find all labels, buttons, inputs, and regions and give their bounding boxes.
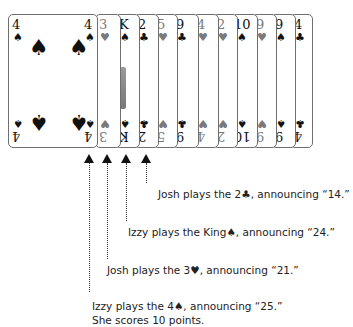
dotted-leader-line [89, 163, 90, 292]
arrow-up-icon [102, 154, 112, 163]
suit-icon: ♣ [177, 32, 187, 43]
card-rank: 4 [12, 18, 20, 32]
suit-icon: ♠ [120, 118, 130, 129]
play-note: Izzy plays the 4♠, announcing “25.” [92, 300, 282, 313]
play-note: Josh plays the 2♣, announcing “14.” [158, 188, 350, 201]
suit-icon: ♠ [13, 118, 23, 129]
score-note: She scores 10 points. [92, 314, 204, 327]
suit-icon: ♥ [158, 32, 168, 43]
suit-icon: ♣ [295, 118, 305, 129]
suit-icon: ♠ [120, 32, 130, 43]
play-note: Josh plays the 3♥, announcing “21.” [107, 264, 299, 277]
suit-icon: ♥ [257, 118, 267, 129]
suit-icon: ♥ [158, 118, 168, 129]
arrow-up-icon [121, 154, 131, 163]
suit-icon: ♥ [198, 32, 208, 43]
arrow-up-icon [141, 154, 151, 163]
card-rank: 4 [12, 129, 20, 143]
suit-icon: ♥ [218, 32, 228, 43]
dotted-leader-line [126, 163, 127, 221]
suit-icon: ♠ [276, 32, 286, 43]
spade-pip-icon: ♠ [29, 111, 49, 133]
suit-icon: ♥ [100, 32, 110, 43]
suit-icon: ♠ [237, 32, 247, 43]
suit-icon: ♣ [295, 32, 305, 43]
dotted-leader-line [107, 163, 108, 259]
dotted-leader-line [146, 163, 147, 183]
spade-pip-icon: ♠ [69, 37, 89, 59]
card-rank: 4 [84, 18, 92, 32]
suit-icon: ♥ [218, 118, 228, 129]
suit-icon: ♠ [13, 32, 23, 43]
suit-icon: ♠ [237, 118, 247, 129]
card-rank: 3 [99, 18, 107, 32]
suit-icon: ♥ [198, 118, 208, 129]
suit-icon: ♣ [177, 118, 187, 129]
suit-icon: ♣ [139, 118, 149, 129]
card-rank: 3 [99, 129, 107, 143]
suit-icon: ♥ [100, 118, 110, 129]
play-note: Izzy plays the King♠, announcing “24.” [128, 226, 335, 239]
playing-card: 3♥3♥ [95, 14, 121, 148]
suit-icon: ♥ [257, 32, 267, 43]
arrow-up-icon [84, 154, 94, 163]
playing-card: 4♠4♠4♠4♠♠♠♠♠ [8, 14, 98, 148]
spade-pip-icon: ♠ [29, 37, 49, 59]
suit-icon: ♣ [139, 32, 149, 43]
spade-pip-icon: ♠ [69, 111, 89, 133]
suit-icon: ♠ [276, 118, 286, 129]
